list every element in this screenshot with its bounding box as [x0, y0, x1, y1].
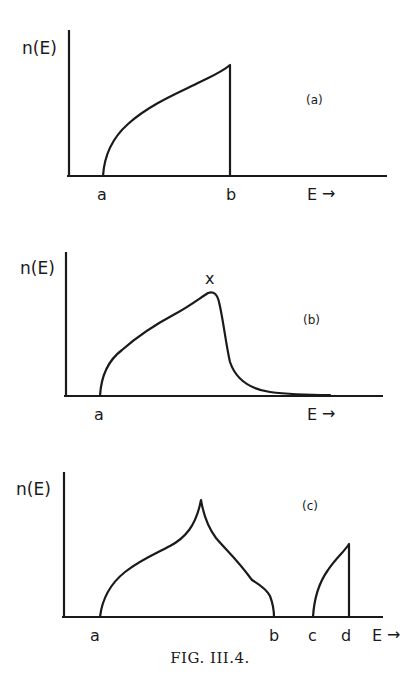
- panel-a-xlabel: E: [307, 185, 317, 204]
- panel-b-peak-marker: x: [205, 269, 214, 288]
- panel-c-band-ab-curve: [100, 500, 274, 617]
- panel-b-tick-a: a: [94, 405, 104, 424]
- panel-a-tick-b: b: [226, 185, 236, 204]
- panel-c-tick-a: a: [90, 626, 100, 645]
- panel-b-x-arrow: →: [322, 404, 335, 423]
- panel-c-xlabel: E: [372, 626, 382, 645]
- panel-b: n(E) x (b) a E →: [20, 252, 383, 424]
- panel-a-tag: (a): [306, 93, 323, 107]
- figure-canvas: n(E) (a) a b E → n(E) x (b) a E → n(E) (…: [0, 0, 420, 679]
- panel-a-tick-a: a: [97, 185, 107, 204]
- panel-c-band-cd-curve: [313, 544, 349, 617]
- figure-caption: FIG. III.4.: [170, 649, 250, 667]
- panel-c-ylabel: n(E): [16, 479, 51, 499]
- panel-a-density-curve: [103, 65, 230, 176]
- panel-c-tick-d: d: [341, 626, 351, 645]
- panel-b-tag: (b): [303, 313, 320, 327]
- panel-a: n(E) (a) a b E →: [22, 30, 387, 204]
- panel-c: n(E) (c) a b c d E →: [16, 472, 400, 645]
- panel-c-tick-b: b: [269, 626, 279, 645]
- panel-c-tick-c: c: [308, 626, 317, 645]
- panel-b-density-curve: [100, 292, 330, 396]
- panel-a-ylabel: n(E): [22, 38, 57, 58]
- panel-b-ylabel: n(E): [20, 258, 55, 278]
- panel-c-x-arrow: →: [387, 625, 400, 644]
- panel-b-xlabel: E: [307, 405, 317, 424]
- panel-c-tag: (c): [302, 499, 318, 513]
- panel-a-x-arrow: →: [322, 184, 335, 203]
